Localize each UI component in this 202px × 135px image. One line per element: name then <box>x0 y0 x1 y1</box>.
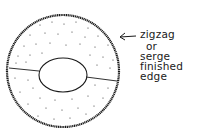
seam-line-left <box>9 68 39 71</box>
annotation-line-5: edge <box>140 72 167 81</box>
arrow-icon <box>120 33 136 40</box>
annotation-line-1: zigzag <box>140 30 175 39</box>
seam-line-right <box>86 77 117 81</box>
center-opening <box>39 58 87 92</box>
